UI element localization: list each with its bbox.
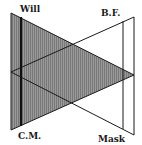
shaded-triangle <box>11 13 134 130</box>
label-cm: C.M. <box>18 131 41 141</box>
label-bf: B.F. <box>101 8 120 18</box>
label-will: Will <box>19 4 41 14</box>
label-mask: Mask <box>98 134 126 144</box>
diagram-canvas: Will B.F. C.M. Mask <box>0 0 142 145</box>
